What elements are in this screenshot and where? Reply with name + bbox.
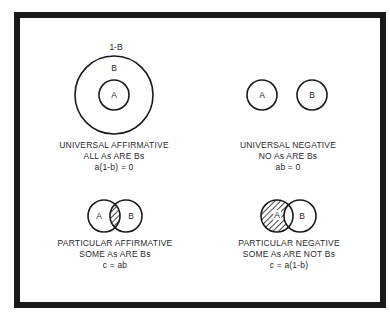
universal-affirmative-caption: UNIVERSAL AFFIRMATIVE ALL As ARE Bs a(1-… — [59, 140, 169, 173]
particular-negative-diagram — [261, 200, 316, 232]
particular-negative-caption: PARTICULAR NEGATIVE SOME As ARE NOT Bs c… — [238, 238, 340, 271]
caption-statement: NO As ARE Bs — [240, 151, 336, 162]
caption-formula: ab = 0 — [240, 162, 336, 173]
label-b: B — [299, 211, 305, 221]
label-1-b: 1-B — [109, 42, 122, 52]
caption-formula: c = a(1-b) — [238, 260, 340, 271]
label-b: B — [128, 211, 134, 221]
caption-title: PARTICULAR AFFIRMATIVE — [58, 238, 173, 249]
label-a: A — [96, 211, 102, 221]
caption-formula: c = ab — [58, 260, 173, 271]
caption-title: UNIVERSAL AFFIRMATIVE — [59, 140, 169, 151]
label-b: B — [309, 90, 315, 100]
caption-formula: a(1-b) = 0 — [59, 162, 169, 173]
label-a: A — [273, 210, 281, 220]
label-b: B — [111, 63, 117, 73]
particular-affirmative-caption: PARTICULAR AFFIRMATIVE SOME As ARE Bs c … — [58, 238, 173, 271]
caption-statement: SOME As ARE NOT Bs — [238, 249, 340, 260]
caption-statement: SOME As ARE Bs — [58, 249, 173, 260]
label-a: A — [259, 90, 265, 100]
caption-title: PARTICULAR NEGATIVE — [238, 238, 340, 249]
caption-title: UNIVERSAL NEGATIVE — [240, 140, 336, 151]
universal-negative-caption: UNIVERSAL NEGATIVE NO As ARE Bs ab = 0 — [240, 140, 336, 173]
caption-statement: ALL As ARE Bs — [59, 151, 169, 162]
label-a: A — [111, 90, 117, 100]
